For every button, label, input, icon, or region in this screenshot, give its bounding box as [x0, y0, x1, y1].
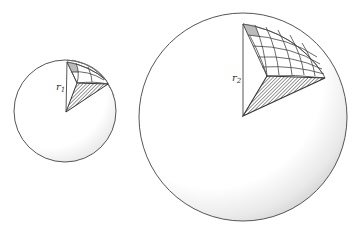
large-sphere: r2	[139, 13, 347, 221]
sphere-comparison-diagram: r1 r2	[0, 0, 355, 234]
small-sphere: r1	[14, 60, 116, 162]
